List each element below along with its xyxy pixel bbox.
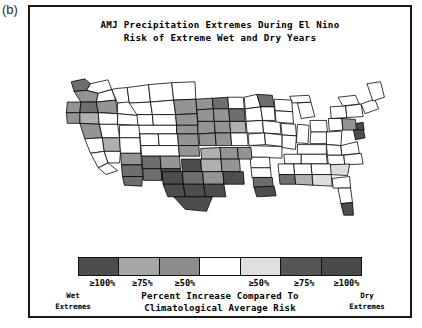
map-division-wy-nw — [137, 115, 153, 126]
map-division-la-s — [254, 186, 276, 197]
legend-swatch-wet-ge-75 — [119, 258, 159, 275]
map-division-ne-w — [198, 121, 215, 134]
map-division-wy-se — [177, 125, 198, 134]
map-division-co-ne — [158, 134, 178, 146]
map-division-tx-c — [182, 172, 203, 185]
map-division-il-s — [282, 135, 297, 150]
map-division-or-e — [96, 100, 117, 114]
map-division-ny-n — [338, 95, 359, 106]
map-division-nm-nw — [142, 156, 161, 169]
map-division-tx-sw — [163, 184, 185, 197]
map-division-la-n — [253, 177, 273, 187]
map-division-nm-ne — [160, 156, 180, 169]
map-division-ut-s — [120, 138, 141, 153]
map-division-ia-e — [263, 120, 281, 134]
legend-swatch-dry-ge-75 — [281, 258, 321, 275]
map-division-nv-c — [102, 138, 120, 152]
map-division-ne-e — [230, 121, 246, 133]
map-division-tx-se — [204, 184, 226, 197]
map-division-ca-n — [80, 123, 102, 138]
dry-extremes-label: Dry Extremes — [336, 290, 398, 312]
map-division-nj — [356, 122, 364, 130]
map-division-sd-c — [213, 109, 229, 122]
map-division-wi-n — [274, 99, 292, 112]
map-division-or-ne — [80, 102, 98, 113]
map-division-mi-lp — [297, 102, 314, 118]
figure-root: (b) AMJ Precipitation Extremes During El… — [0, 0, 422, 328]
map-division-mo-s — [249, 146, 282, 159]
map-division-tx-ec — [203, 172, 224, 185]
map-division-mt-c — [149, 83, 174, 102]
map-division-fl-n — [332, 177, 350, 189]
map-division-va-e — [341, 142, 359, 156]
map-division-ks-e — [231, 133, 248, 146]
map-division-mi-up — [290, 95, 311, 103]
map-division-nd-e — [228, 97, 244, 109]
map-division-ok-w — [201, 148, 221, 160]
map-division-in — [296, 124, 309, 143]
map-division-ny-w — [330, 106, 346, 119]
map-division-nd-w — [196, 98, 213, 110]
map-division-ks-w — [199, 133, 216, 146]
map-division-fl-c — [338, 188, 353, 203]
map-division-tx-n — [201, 159, 222, 172]
map-division-co-nw — [140, 134, 159, 146]
map-division-nv-n — [99, 124, 119, 138]
dry-label-line-2: Extremes — [336, 301, 398, 312]
map-division-ne-states — [361, 99, 378, 113]
map-division-ia-w — [246, 120, 263, 133]
map-division-oh-n — [310, 120, 327, 132]
map-division-ut-n — [120, 125, 140, 138]
map-division-mt-sc — [150, 100, 175, 115]
map-division-or-sc — [98, 113, 117, 125]
map-division-tx-sc — [183, 184, 205, 197]
map-division-wy-e — [176, 114, 198, 126]
map-division-ar-n — [250, 157, 270, 168]
legend-tick-2: ≥50% — [175, 278, 196, 289]
map-division-id-s — [118, 114, 139, 126]
map-division-az-c — [121, 165, 142, 177]
map-division-or-se — [80, 113, 99, 125]
map-division-az-s — [122, 177, 142, 187]
map-division-pa-e — [342, 119, 357, 131]
dry-label-line-1: Dry — [336, 290, 398, 301]
map-division-ok-e — [237, 148, 252, 160]
map-division-pa-w — [328, 119, 343, 132]
map-division-me — [367, 82, 384, 101]
map-division-tn-e — [301, 154, 327, 164]
map-division-ms-n — [278, 164, 294, 175]
map-division-wv — [326, 131, 341, 146]
map-division-nc-e — [344, 153, 363, 165]
legend-swatch-dry-ge-100 — [322, 258, 361, 275]
legend-tick-4: ≥75% — [294, 278, 315, 289]
map-division-ms-s — [279, 175, 295, 185]
map-division-wa-c — [74, 90, 98, 102]
map-division-or-sw — [66, 113, 80, 124]
map-division-fl-s — [341, 203, 354, 216]
map-division-az-n — [121, 153, 142, 165]
map-division-tx-e — [223, 172, 244, 185]
legend-tick-3: ≥50% — [248, 278, 269, 289]
map-division-ca-c — [85, 138, 104, 153]
map-division-mt-w — [127, 85, 150, 103]
map-division-co-se — [179, 146, 200, 157]
legend-swatch-dry-ge-50 — [241, 258, 281, 275]
legend-tick-1: ≥75% — [132, 278, 153, 289]
figure-frame: AMJ Precipitation Extremes During El Nin… — [28, 5, 412, 318]
map-division-sd-e — [229, 109, 245, 122]
chart-title: AMJ Precipitation Extremes During El Nin… — [30, 18, 410, 44]
map-division-wy-ne — [152, 115, 176, 126]
map-division-nd-c — [212, 97, 228, 109]
map-division-ga-n — [311, 164, 331, 175]
map-division-mn-s — [245, 107, 262, 122]
title-line-2: Risk of Extreme Wet and Dry Years — [30, 31, 410, 44]
map-division-nc-w — [327, 155, 344, 165]
map-division-co-e — [178, 134, 199, 146]
map-division-ky — [297, 145, 326, 155]
map-division-co-s — [141, 146, 180, 157]
legend-color-bar — [78, 257, 362, 276]
map-division-nm-sw — [143, 169, 162, 181]
panel-label: (b) — [2, 3, 18, 16]
map-division-group — [66, 79, 384, 215]
legend-swatch-neutral — [200, 258, 240, 275]
